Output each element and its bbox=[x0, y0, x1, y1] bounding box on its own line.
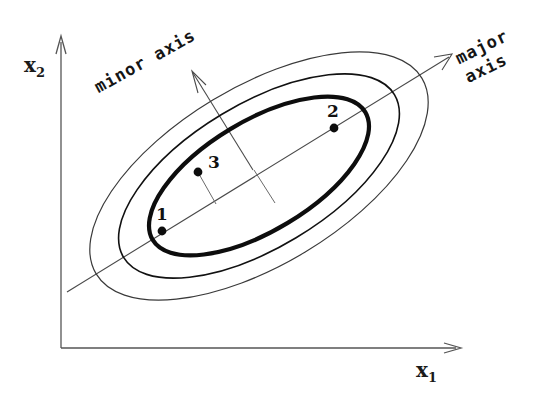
projection-line-point3 bbox=[199, 174, 216, 204]
projection-line-minor-axis bbox=[254, 170, 275, 203]
data-point-2[interactable] bbox=[330, 124, 339, 133]
y-axis-label: x2 bbox=[24, 53, 45, 80]
data-point-label-2: 2 bbox=[327, 101, 339, 121]
data-point-1[interactable] bbox=[158, 227, 167, 236]
data-point-3[interactable] bbox=[194, 168, 203, 177]
x-axis-label-subscript: 1 bbox=[428, 370, 437, 385]
contour-ellipses bbox=[50, 2, 467, 350]
contour-ellipse-inner bbox=[124, 65, 393, 287]
y-axis-label-text: x bbox=[24, 53, 36, 77]
data-point-label-1: 1 bbox=[156, 204, 168, 224]
x-axis-label-text: x bbox=[416, 358, 428, 382]
contour-ellipse-outer bbox=[50, 2, 467, 350]
x-axis-label: x1 bbox=[416, 358, 437, 385]
y-axis-label-subscript: 2 bbox=[36, 65, 45, 80]
major-axis-arrowhead bbox=[434, 54, 452, 70]
ellipse-contour-figure: x2 x1 minor axis major axis 1 2 3 bbox=[0, 0, 545, 404]
data-point-label-3: 3 bbox=[208, 152, 220, 172]
